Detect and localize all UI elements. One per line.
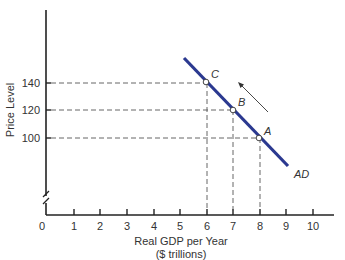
x-tick-label-6: 6 xyxy=(204,220,210,232)
x-tick-label-8: 8 xyxy=(257,220,263,232)
x-tick-label-0: 0 xyxy=(39,220,45,232)
x-tick-label-7: 7 xyxy=(230,220,236,232)
point-b-label: B xyxy=(238,96,245,108)
point-b-marker xyxy=(230,107,236,113)
y-tick-label-100: 100 xyxy=(22,132,40,144)
x-tick-label-10: 10 xyxy=(307,220,319,232)
x-ticks xyxy=(74,209,313,215)
x-tick-label-1: 1 xyxy=(71,220,77,232)
ad-curve xyxy=(184,58,288,166)
x-tick-label-9: 9 xyxy=(283,220,289,232)
y-tick-label-120: 120 xyxy=(22,104,40,116)
point-c-label: C xyxy=(211,68,219,80)
y-axis-title: Price Level xyxy=(4,83,16,137)
x-tick-label-2: 2 xyxy=(97,220,103,232)
axes xyxy=(46,10,334,215)
x-axis-subtitle: ($ trillions) xyxy=(156,248,207,260)
x-tick-label-4: 4 xyxy=(151,220,157,232)
point-a-label: A xyxy=(263,125,271,137)
point-c-marker xyxy=(203,79,209,85)
point-a-marker xyxy=(256,135,262,141)
x-tick-label-3: 3 xyxy=(124,220,130,232)
curve-label: AD xyxy=(293,168,309,180)
x-axis-title: Real GDP per Year xyxy=(134,235,228,247)
aggregate-demand-chart: C B A AD 140 120 100 0 1 2 3 4 5 6 7 8 9… xyxy=(0,0,345,260)
x-tick-label-5: 5 xyxy=(177,220,183,232)
y-tick-label-140: 140 xyxy=(22,77,40,89)
